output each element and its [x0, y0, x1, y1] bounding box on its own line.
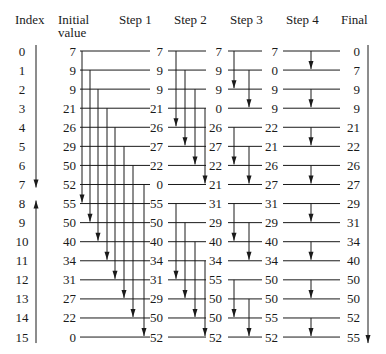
comparator-step4 — [309, 242, 314, 260]
step2-value: 34 — [209, 253, 223, 268]
index-label: 4 — [19, 120, 26, 135]
arrowhead-down-icon — [232, 156, 237, 164]
bitonic-sort-network-diagram: Index Initial value Step 1 Step 2 Step 3… — [0, 0, 386, 354]
initial-value: 27 — [63, 291, 77, 306]
arrowhead-down-icon — [309, 99, 314, 107]
arrowhead-down-icon — [183, 137, 188, 145]
final-value: 0 — [354, 44, 361, 59]
column-headers: Index Initial value Step 1 Step 2 Step 3… — [15, 12, 368, 40]
final-value: 50 — [347, 291, 360, 306]
comparator-step4 — [309, 127, 314, 145]
initial-value: 55 — [63, 196, 76, 211]
comparator-step1 — [105, 108, 110, 260]
step3-value: 7 — [272, 44, 279, 59]
step2-value: 9 — [216, 82, 223, 97]
index-label: 11 — [16, 253, 29, 268]
step2-value: 52 — [209, 330, 222, 345]
arrowhead-down-icon — [183, 290, 188, 298]
header-initial-line2: value — [58, 25, 86, 40]
header-index: Index — [15, 12, 45, 27]
index-label: 9 — [19, 215, 26, 230]
step2-value: 22 — [209, 158, 222, 173]
arrowhead-down-icon — [232, 309, 237, 317]
comparator-step4 — [309, 51, 314, 69]
comparator-step4 — [309, 318, 314, 336]
arrowhead-down-icon — [174, 118, 179, 126]
header-step3: Step 3 — [230, 12, 263, 27]
header-step2: Step 2 — [174, 12, 207, 27]
step3-value: 50 — [265, 291, 278, 306]
arrowhead-down-icon — [366, 335, 371, 343]
arrowhead-down-icon — [113, 271, 118, 279]
step3-value: 34 — [265, 253, 279, 268]
step1-value: 52 — [150, 330, 163, 345]
step2-value: 31 — [209, 196, 222, 211]
arrowhead-down-icon — [80, 195, 85, 203]
index-label: 14 — [16, 310, 30, 325]
step1-value: 29 — [150, 291, 163, 306]
arrowhead-down-icon — [34, 179, 39, 187]
arrowhead-down-icon — [309, 137, 314, 145]
step2-value: 0 — [216, 101, 223, 116]
header-step1: Step 1 — [119, 12, 152, 27]
step3-value: 22 — [265, 120, 278, 135]
step3-value: 40 — [265, 234, 278, 249]
index-label: 5 — [19, 139, 26, 154]
index-label: 2 — [19, 82, 26, 97]
index-label: 0 — [19, 44, 26, 59]
arrowhead-down-icon — [247, 99, 252, 107]
step3-value: 26 — [265, 158, 279, 173]
arrowhead-down-icon — [122, 290, 127, 298]
initial-value: 7 — [70, 44, 77, 59]
step3-value: 27 — [265, 177, 279, 192]
step1-value: 22 — [150, 158, 163, 173]
initial-value: 34 — [63, 253, 77, 268]
initial-value: 22 — [63, 310, 76, 325]
arrowhead-down-icon — [203, 328, 208, 336]
arrowhead-down-icon — [88, 214, 93, 222]
arrowhead-down-icon — [309, 61, 314, 69]
final-value: 9 — [354, 82, 361, 97]
initial-value: 9 — [70, 82, 77, 97]
comparators — [80, 51, 314, 336]
initial-value: 0 — [70, 330, 77, 345]
comparator-step2 — [203, 261, 208, 336]
arrowhead-down-icon — [232, 233, 237, 241]
step3-value: 52 — [265, 330, 278, 345]
step1-value: 31 — [150, 272, 163, 287]
step3-value: 31 — [265, 196, 278, 211]
step2-value: 29 — [209, 215, 222, 230]
step2-value: 50 — [209, 291, 222, 306]
arrowhead-down-icon — [309, 214, 314, 222]
step1-value: 27 — [150, 139, 164, 154]
step1-value: 50 — [150, 310, 163, 325]
final-value: 34 — [347, 234, 361, 249]
comparator-step3 — [247, 299, 252, 336]
step3-value: 9 — [272, 101, 279, 116]
final-value: 31 — [347, 215, 360, 230]
header-final: Final — [341, 12, 368, 27]
arrowhead-down-icon — [247, 252, 252, 260]
step1-value: 7 — [157, 44, 164, 59]
step2-value: 50 — [209, 310, 222, 325]
final-value: 21 — [347, 120, 360, 135]
initial-value: 26 — [63, 120, 77, 135]
step3-value: 50 — [265, 272, 278, 287]
index-label: 13 — [16, 291, 29, 306]
step1-value: 34 — [150, 253, 164, 268]
initial-value: 21 — [63, 101, 76, 116]
arrowhead-down-icon — [174, 271, 179, 279]
arrowhead-down-icon — [203, 175, 208, 183]
arrowhead-down-icon — [309, 290, 314, 298]
final-value: 29 — [347, 196, 360, 211]
step1-value: 26 — [150, 120, 164, 135]
index-label: 15 — [16, 330, 29, 345]
step3-value: 21 — [265, 139, 278, 154]
arrowhead-down-icon — [193, 156, 198, 164]
arrowhead-down-icon — [142, 328, 147, 336]
arrowhead-down-icon — [309, 175, 314, 183]
final-value: 55 — [347, 330, 360, 345]
step1-value: 9 — [157, 82, 164, 97]
index-label: 12 — [16, 272, 29, 287]
step2-value: 21 — [209, 177, 222, 192]
